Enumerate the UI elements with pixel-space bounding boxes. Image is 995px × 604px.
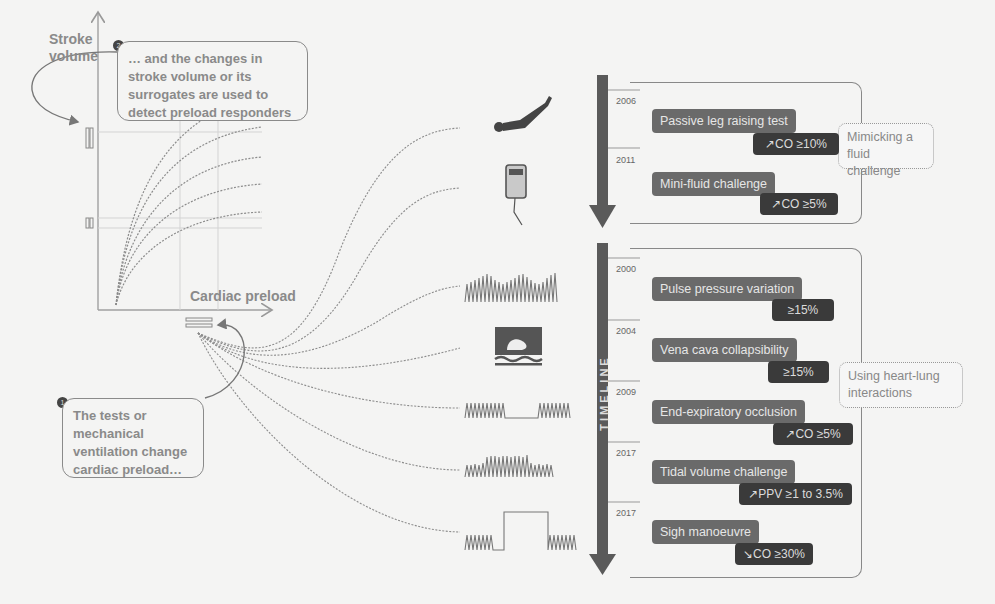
x-axis-label: Cardiac preload	[190, 288, 296, 305]
test-passive-leg-raising: Passive leg raising test	[652, 109, 796, 133]
fluid-bag-icon	[506, 165, 526, 225]
callout-step-1: The tests or mechanical ventilation chan…	[62, 398, 204, 478]
occlusion-waveform-icon	[465, 403, 570, 418]
threshold-passive-leg-raising: ↗CO ≥10%	[753, 133, 839, 155]
threshold-vena-cava-collapsibility: ≥15%	[768, 361, 829, 383]
year-label: 2006	[616, 96, 636, 106]
test-vena-cava-collapsibility: Vena cava collapsibility	[652, 338, 797, 362]
threshold-sigh-manoeuvre: ↘CO ≥30%	[735, 543, 813, 565]
leg-raise-icon	[494, 96, 552, 132]
timeline-label: TIMELINE	[598, 346, 610, 441]
threshold-tidal-volume-challenge: ↗PPV ≥1 to 3.5%	[739, 483, 852, 505]
sigh-waveform-icon	[465, 512, 576, 550]
year-label: 2009	[616, 387, 636, 397]
test-mini-fluid-challenge: Mini-fluid challenge	[652, 172, 775, 196]
year-label: 2017	[616, 448, 636, 458]
tidal-waveform-icon	[465, 455, 553, 477]
threshold-pulse-pressure-variation: ≥15%	[772, 299, 834, 321]
y-axis-label: Stroke volume	[49, 31, 99, 65]
ultrasound-icon	[495, 327, 542, 366]
test-sigh-manoeuvre: Sigh manoeuvre	[652, 520, 759, 544]
group-label-fluid-challenge: Mimicking a fluid challenge	[838, 123, 934, 169]
test-tidal-volume-challenge: Tidal volume challenge	[652, 460, 795, 484]
group-label-heart-lung: Using heart-lung interactions	[839, 362, 963, 408]
callout-step-2: … and the changes in stroke volume or it…	[117, 41, 308, 121]
test-end-expiratory-occlusion: End-expiratory occlusion	[652, 400, 805, 424]
year-label: 2011	[616, 155, 635, 165]
threshold-end-expiratory-occlusion: ↗CO ≥5%	[773, 423, 853, 445]
timeline-arrow-1	[589, 75, 616, 228]
year-label: 2004	[616, 326, 636, 336]
pressure-waveform-icon	[465, 273, 557, 302]
year-label: 2017	[616, 508, 636, 518]
test-pulse-pressure-variation: Pulse pressure variation	[652, 277, 802, 301]
year-label: 2000	[616, 264, 636, 274]
threshold-mini-fluid-challenge: ↗CO ≥5%	[760, 193, 838, 215]
